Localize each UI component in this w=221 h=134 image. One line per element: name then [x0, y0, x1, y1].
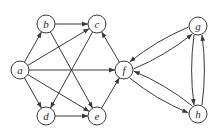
node-h: h: [189, 105, 207, 123]
node-b: b: [37, 15, 55, 33]
node-h-label: h: [195, 108, 201, 120]
edge-f-to-c: [102, 32, 120, 62]
node-c: c: [88, 15, 106, 33]
node-b-label: b: [43, 18, 49, 30]
edge-a-to-b: [24, 32, 41, 62]
node-d: d: [37, 107, 55, 125]
edge-g-to-h: [192, 35, 194, 105]
node-e-label: e: [95, 110, 100, 122]
node-e: e: [88, 107, 106, 125]
edge-a-to-d: [24, 78, 41, 108]
edge-e-to-f: [102, 78, 120, 108]
node-g-label: g: [195, 20, 201, 32]
edge-h-to-g: [202, 35, 204, 105]
node-f: f: [115, 61, 133, 79]
node-d-label: d: [43, 110, 49, 122]
node-c-label: c: [95, 18, 100, 30]
directed-graph: abcdefgh: [0, 0, 221, 134]
node-g: g: [189, 17, 207, 35]
edges: [24, 24, 204, 116]
node-a: a: [11, 61, 29, 79]
node-a-label: a: [17, 64, 23, 76]
